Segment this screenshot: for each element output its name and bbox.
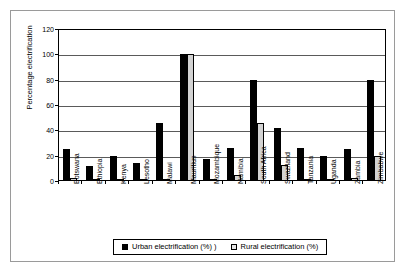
bar-urban [250,80,257,181]
x-axis-label: Malawi [166,162,174,184]
y-axis-tick-label: 40 [46,127,54,134]
y-axis-tick-label: 20 [46,152,54,159]
x-axis-labels: BotswanaEthiopiaKenyaLesothoMalawiMaurit… [58,184,386,236]
x-axis-label: Ethiopia [96,159,104,184]
bar-group [105,29,128,181]
bar-urban [344,149,351,181]
x-axis-label: Lesotho [143,159,151,184]
x-axis-label: Mozambique [213,144,221,184]
y-axis-tick-label: 80 [46,76,54,83]
x-axis-label: South Africa [260,146,268,184]
y-axis-tick-label: 100 [42,51,54,58]
figure-frame: Percentage electrification 0204060801001… [10,10,395,262]
bar-urban [227,148,234,181]
bar-urban [133,163,140,181]
bar-urban [297,148,304,181]
y-axis-tick-label: 0 [50,178,54,185]
bar-urban [110,156,117,181]
x-axis-label: Tanzania [307,156,315,184]
x-axis-label: Namibia [237,158,245,184]
legend-label-urban: Urban electrification (%) ) [132,243,217,251]
chart-legend: Urban electrification (%) ) Rural electr… [113,239,327,255]
legend-item-urban: Urban electrification (%) ) [122,243,217,251]
legend-label-rural: Rural electrification (%) [241,243,319,251]
x-axis-label: Swaziland [284,152,292,184]
y-axis-tick-label: 60 [46,102,54,109]
bar-urban [203,159,210,181]
x-axis-label: Zambia [354,161,362,184]
legend-swatch-urban-icon [122,244,128,250]
x-axis-label: Botswana [73,153,81,184]
legend-swatch-rural-icon [231,244,237,250]
bar-urban [274,128,281,181]
bar-urban [180,54,187,181]
bar-urban [367,80,374,181]
bar-urban [63,149,70,181]
bar-urban [86,166,93,181]
x-axis-label: Mauritius [190,156,198,184]
y-axis-ticks: 020406080100120 [29,29,58,181]
x-axis-label: Zimbabwe [377,152,385,184]
bar-urban [156,123,163,181]
x-axis-label: Uganda [330,159,338,184]
x-axis-label: Kenya [120,164,128,184]
bar-urban [320,156,327,181]
y-axis-tick-label: 120 [42,26,54,33]
bar-group [152,29,175,181]
legend-item-rural: Rural electrification (%) [231,243,319,251]
bar-group [339,29,362,181]
